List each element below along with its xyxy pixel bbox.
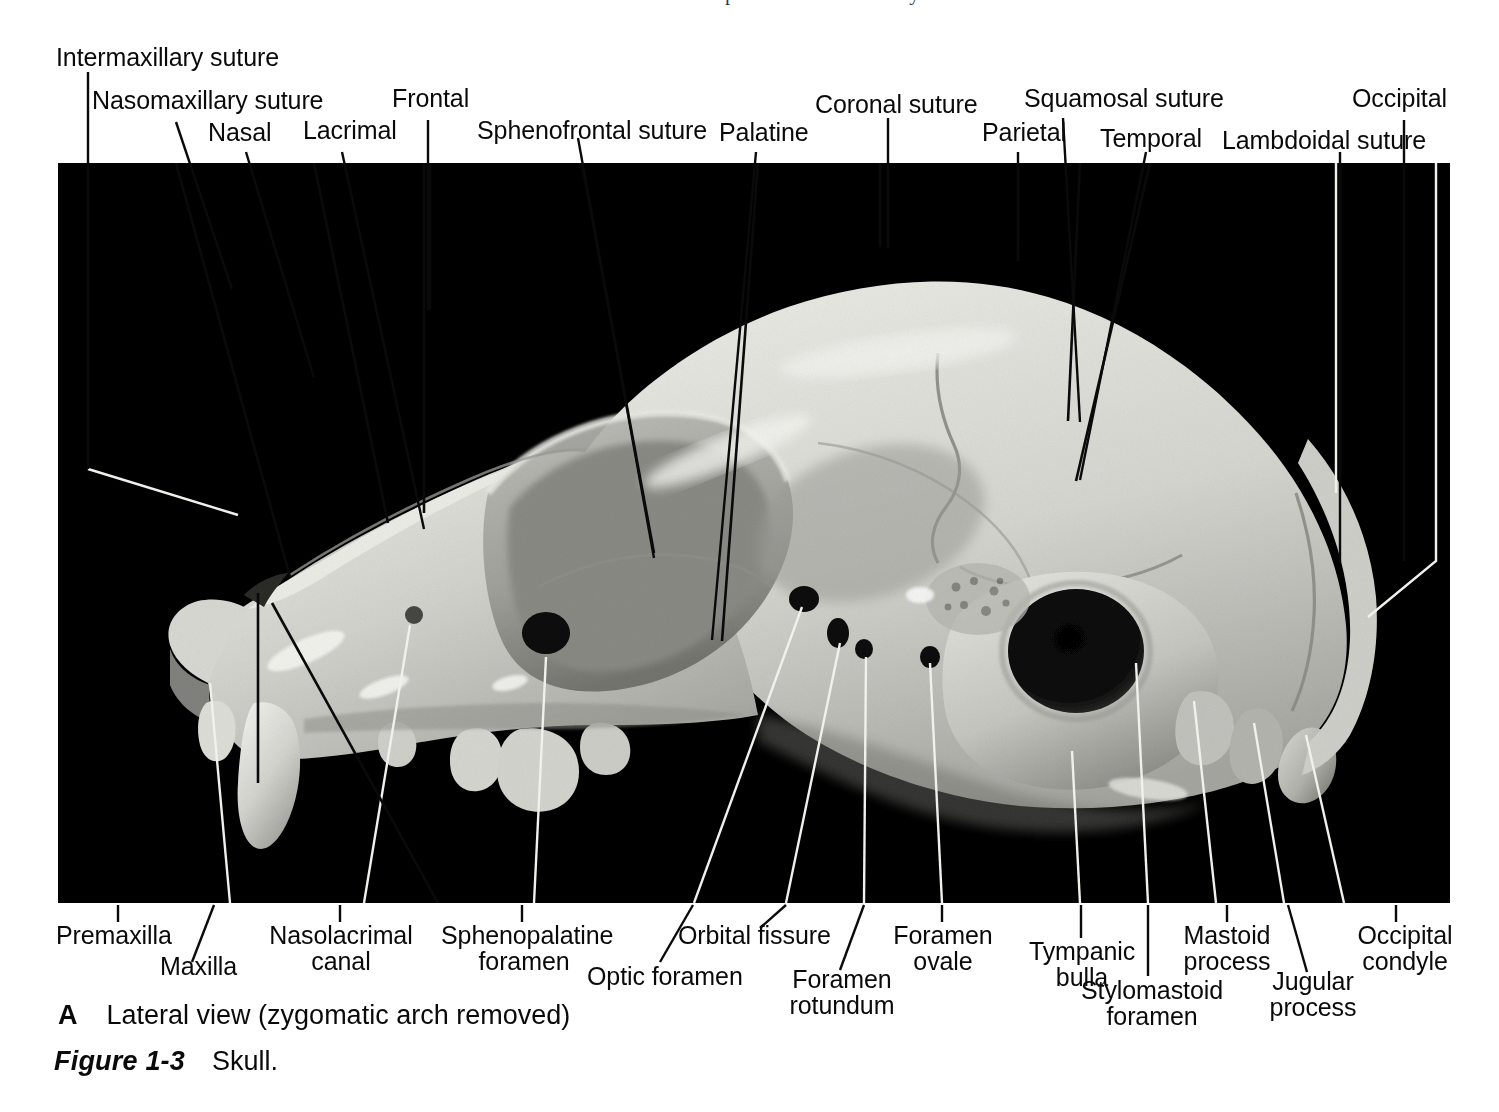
label-lambdoidal-suture: Lambdoidal suture [1222, 127, 1426, 153]
label-optic-foramen: Optic foramen [587, 963, 743, 989]
nasolacrimal-canal-hole [405, 606, 423, 624]
figure-number: Figure 1-3 [54, 1046, 185, 1076]
label-nasolacrimal-canal: Nasolacrimal canal [266, 922, 416, 974]
label-foramen-rotundum: Foramen rotundum [782, 966, 902, 1018]
figure-title: Skull. [212, 1046, 278, 1076]
label-nasolacrimal-canal-line2: canal [266, 948, 416, 974]
skull-photo-svg [58, 163, 1450, 903]
label-intermaxillary-suture: Intermaxillary suture [56, 44, 279, 70]
premolar-3 [450, 728, 502, 791]
label-nasal: Nasal [208, 119, 271, 145]
label-nasolacrimal-canal-line1: Nasolacrimal [266, 922, 416, 948]
optic-foramen-hole [789, 586, 819, 612]
label-palatine: Palatine [719, 119, 809, 145]
label-temporal: Temporal [1100, 125, 1202, 151]
label-sphenopalatine-foramen-line2: foramen [441, 948, 607, 974]
petrous-porous-patch [926, 563, 1030, 635]
label-occipital-condyle-line2: condyle [1340, 948, 1470, 974]
label-stylomastoid-foramen-line1: Stylomastoid [1070, 977, 1234, 1003]
leader-foramen-rotundum-bot [840, 905, 864, 970]
label-occipital: Occipital [1352, 85, 1447, 111]
label-squamosal-suture: Squamosal suture [1024, 85, 1224, 111]
label-foramen-rotundum-line1: Foramen [782, 966, 902, 992]
label-coronal-suture: Coronal suture [815, 91, 978, 117]
panel-letter: A [58, 1000, 78, 1030]
label-foramen-ovale-line2: ovale [887, 948, 999, 974]
label-premaxilla: Premaxilla [56, 922, 172, 948]
label-sphenopalatine-foramen: Sphenopalatine foramen [441, 922, 607, 974]
label-orbital-fissure: Orbital fissure [678, 922, 831, 948]
label-tympanic-bulla-line1: Tympanic [1021, 938, 1143, 964]
label-jugular-process: Jugular process [1255, 968, 1371, 1020]
label-parietal: Parietal [982, 119, 1066, 145]
figure-caption-line: Figure 1-3 Skull. [54, 1046, 278, 1077]
label-sphenopalatine-foramen-line1: Sphenopalatine [441, 922, 607, 948]
label-maxilla: Maxilla [160, 953, 237, 979]
label-occipital-condyle: Occipital condyle [1340, 922, 1470, 974]
orbital-fissure-hole [827, 618, 849, 648]
label-sphenofrontal-suture: Sphenofrontal suture [477, 117, 707, 143]
label-nasomaxillary-suture: Nasomaxillary suture [92, 87, 323, 113]
sphenopalatine-foramen-hole [522, 612, 570, 654]
page-header-bleed: Chapter 1 The Skeletal System [0, 0, 1499, 14]
label-mastoid-process-line1: Mastoid [1163, 922, 1291, 948]
figure-page: Chapter 1 The Skeletal System [0, 0, 1499, 1112]
label-frontal: Frontal [392, 85, 469, 111]
label-lacrimal: Lacrimal [303, 117, 397, 143]
panel-caption-line: A Lateral view (zygomatic arch removed) [58, 1000, 570, 1031]
skull-photograph [58, 163, 1450, 903]
label-foramen-ovale-line1: Foramen [887, 922, 999, 948]
label-stylomastoid-foramen: Stylomastoid foramen [1070, 977, 1234, 1029]
label-jugular-process-line2: process [1255, 994, 1371, 1020]
label-occipital-condyle-line1: Occipital [1340, 922, 1470, 948]
label-foramen-ovale: Foramen ovale [887, 922, 999, 974]
foramen-rotundum-hole [855, 639, 873, 659]
panel-caption-text: Lateral view (zygomatic arch removed) [107, 1000, 571, 1030]
label-stylomastoid-foramen-line2: foramen [1070, 1003, 1234, 1029]
label-foramen-rotundum-line2: rotundum [782, 992, 902, 1018]
page-header-text: Chapter 1 The Skeletal System [690, 0, 961, 6]
